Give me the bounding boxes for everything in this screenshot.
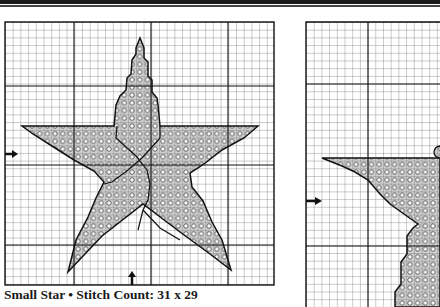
chart-canvas (0, 0, 440, 307)
small-star-chart (5, 22, 274, 285)
large-star-chart (306, 22, 440, 307)
star-point-edge (434, 146, 440, 158)
chart-caption: Small Star • Stitch Count: 31 x 29 (4, 287, 198, 303)
